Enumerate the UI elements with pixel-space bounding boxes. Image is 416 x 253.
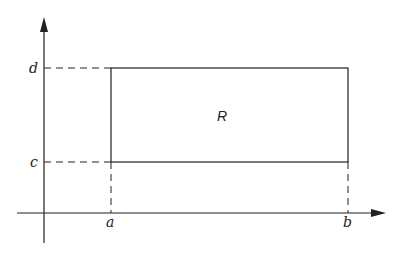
y-axis-arrow-icon [40,17,48,32]
label-region-r: R [217,108,227,124]
label-c: c [30,154,38,170]
region-rectangle [111,68,348,162]
label-b: b [343,214,352,230]
label-a: a [106,214,114,230]
x-axis-arrow-icon [371,209,386,217]
label-d: d [29,60,38,76]
diagram-canvas: d c a b R [0,0,416,253]
